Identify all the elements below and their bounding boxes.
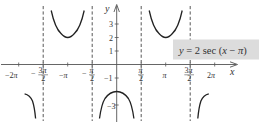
x-tick-label-neg-pi-over-2: − π 2 xyxy=(82,66,95,83)
svg-text:−: − xyxy=(31,69,36,78)
y-axis-label: y xyxy=(104,3,110,14)
secant-graph: x y −2π − 3π 2 −π − π 2 π 2 xyxy=(0,0,268,132)
y-tick-label-1: 1 xyxy=(109,47,113,56)
svg-text:2: 2 xyxy=(41,74,45,83)
branch-upper-right xyxy=(149,11,182,38)
x-tick-label-pi: π xyxy=(163,71,168,80)
svg-text:2: 2 xyxy=(90,74,94,83)
svg-text:2: 2 xyxy=(139,74,143,83)
y-tick-label-3: 3 xyxy=(109,20,113,29)
branch-upper-left xyxy=(51,11,84,38)
svg-text:−: − xyxy=(82,69,87,78)
x-tick-label-3pi-over-2: 3π 2 xyxy=(184,66,194,83)
svg-text:2: 2 xyxy=(187,74,191,83)
x-tick-label-2pi: 2π xyxy=(207,71,216,80)
x-tick-label-neg-3pi-over-2: − 3π 2 xyxy=(31,66,48,83)
y-tick-label-neg-3: −3 xyxy=(107,102,116,111)
equation-text: y = 2 sec (x − π) xyxy=(178,45,247,57)
y-tick-label-neg-1: −1 xyxy=(104,74,113,83)
x-tick-label-neg-2pi: −2π xyxy=(5,71,19,80)
y-tick-label-2: 2 xyxy=(109,34,113,43)
equation-label: y = 2 sec (x − π) xyxy=(173,40,259,60)
x-tick-label-pi-over-2: π 2 xyxy=(138,66,144,83)
branch-right-lower xyxy=(198,94,209,119)
branch-left-lower xyxy=(25,94,36,119)
x-tick-label-neg-pi: −π xyxy=(59,71,69,80)
axes: x y xyxy=(1,3,238,122)
x-axis-label: x xyxy=(229,66,235,77)
